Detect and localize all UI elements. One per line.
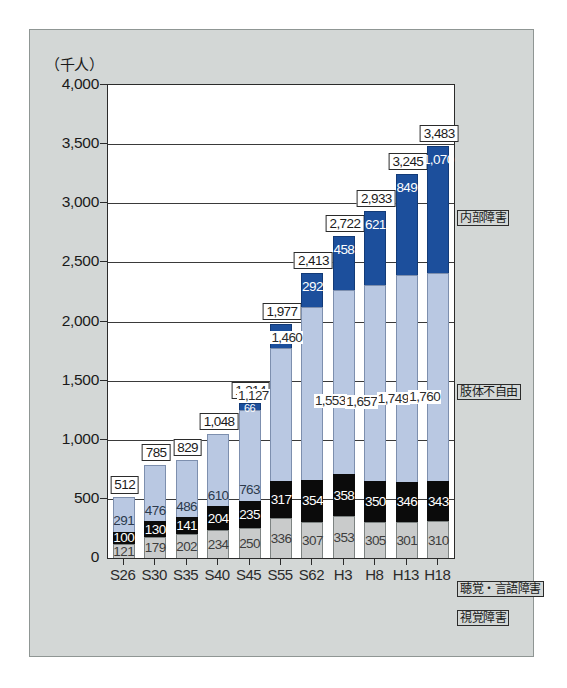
segment-value-label: 1,657: [345, 395, 378, 409]
bar-S45[interactable]: 25023576366: [239, 403, 261, 558]
segment-value-label: 1,749: [377, 392, 410, 406]
bar-S35[interactable]: 202141486: [176, 460, 198, 558]
bar-S55[interactable]: 3363171,127197: [270, 324, 292, 558]
bar-S30[interactable]: 179130476: [144, 465, 166, 558]
segment-value-label: 476: [145, 504, 166, 518]
x-axis-tick-mark: [217, 559, 218, 565]
y-axis-tick-mark: [100, 143, 107, 144]
bar-segment[interactable]: 476: [144, 465, 166, 521]
bar-segment[interactable]: 202: [176, 534, 198, 558]
segment-value-label: 100: [113, 532, 134, 546]
y-axis-tick-label: 3,500: [30, 134, 99, 152]
x-axis-tick-mark: [280, 559, 281, 565]
y-axis-tick-mark: [100, 261, 107, 262]
bar-segment[interactable]: 235: [239, 501, 261, 529]
bar-segment[interactable]: 336: [270, 518, 292, 558]
bar-segment[interactable]: 610: [207, 434, 229, 506]
bar-segment[interactable]: 250: [239, 528, 261, 558]
bar-total-label: 3,245: [388, 153, 427, 170]
bar-segment[interactable]: 346: [396, 482, 418, 523]
bar-segment[interactable]: 621: [364, 211, 386, 284]
bar-segment[interactable]: 204: [207, 506, 229, 530]
x-axis-tick-mark: [374, 559, 375, 565]
bar-segment[interactable]: 1,127: [270, 348, 292, 481]
bar-segment[interactable]: 1,657: [364, 285, 386, 481]
x-axis-tick-label-H18: H18: [424, 566, 450, 583]
y-axis-tick-label: 2,500: [30, 252, 99, 270]
y-axis-tick-mark: [100, 380, 107, 381]
bar-segment[interactable]: 849: [396, 174, 418, 274]
bar-S40[interactable]: 234204610: [207, 434, 229, 558]
bar-segment[interactable]: 353: [333, 516, 355, 558]
bar-segment[interactable]: 121: [113, 544, 135, 558]
segment-value-label: 141: [176, 520, 197, 534]
segment-value-label: 343: [428, 495, 449, 509]
segment-value-label: 204: [208, 512, 229, 526]
x-axis-tick-mark: [343, 559, 344, 565]
bar-segment[interactable]: 458: [333, 236, 355, 290]
bar-H8[interactable]: 3053501,657621: [364, 211, 386, 558]
bar-segment[interactable]: 179: [144, 537, 166, 558]
segment-value-label: 307: [302, 534, 323, 548]
bar-H13[interactable]: 3013461,749849: [396, 174, 418, 558]
legend-item-1: 肢体不自由: [457, 384, 521, 400]
bar-segment[interactable]: 343: [427, 481, 449, 522]
bar-segment[interactable]: 130: [144, 521, 166, 536]
x-axis-tick-label-H8: H8: [365, 566, 383, 583]
segment-value-label: 310: [428, 534, 449, 548]
segment-value-label: 121: [113, 545, 134, 559]
segment-value-label: 234: [208, 538, 229, 552]
segment-value-label: 621: [365, 218, 386, 232]
x-axis-tick-mark: [123, 559, 124, 565]
bar-segment[interactable]: 350: [364, 481, 386, 522]
segment-value-label: 317: [271, 493, 292, 507]
bar-segment[interactable]: 305: [364, 522, 386, 558]
x-axis-tick-label-S30: S30: [142, 566, 167, 583]
bar-segment[interactable]: 358: [333, 474, 355, 516]
y-axis-tick-label: 4,000: [30, 75, 99, 93]
bar-segment[interactable]: 354: [301, 480, 323, 522]
bar-segment[interactable]: 486: [176, 460, 198, 517]
bar-segment[interactable]: 234: [207, 530, 229, 558]
bar-group: 1211002915121791304767852021414868292342…: [108, 85, 454, 558]
bar-segment[interactable]: 1,760: [427, 273, 449, 481]
bar-total-label: 2,413: [294, 252, 333, 269]
bar-segment[interactable]: 1,553: [333, 290, 355, 474]
y-axis-tick-label: 0: [30, 548, 99, 566]
bar-total-label: 1,048: [200, 413, 239, 430]
plot-area: 1211002915121791304767852021414868292342…: [107, 84, 455, 559]
segment-value-label: 1,553: [314, 394, 347, 408]
bar-segment[interactable]: 292: [301, 273, 323, 308]
bar-segment[interactable]: 1,749: [396, 275, 418, 482]
bar-segment[interactable]: 291: [113, 497, 135, 531]
bar-segment[interactable]: 100: [113, 532, 135, 544]
bar-segment[interactable]: 310: [427, 521, 449, 558]
y-axis-tick-label: 3,000: [30, 193, 99, 211]
x-axis-tick-label-S62: S62: [299, 566, 324, 583]
bar-segment[interactable]: 301: [396, 522, 418, 558]
x-axis-tick-label-H13: H13: [393, 566, 419, 583]
segment-value-label: 66: [244, 403, 255, 414]
x-axis-tick-label-S26: S26: [110, 566, 135, 583]
segment-value-label: 202: [176, 540, 197, 554]
bar-H18[interactable]: 3103431,7601,070: [427, 146, 449, 558]
bar-S26[interactable]: 121100291: [113, 497, 135, 558]
bar-segment[interactable]: 763: [239, 410, 261, 500]
segment-value-label: 849: [396, 181, 417, 195]
bar-segment[interactable]: 141: [176, 517, 198, 534]
legend-item-3: 視覚障害: [457, 610, 509, 626]
bar-segment[interactable]: 1,070: [427, 146, 449, 273]
x-axis-tick-label-S55: S55: [267, 566, 292, 583]
x-axis-tick-label-S45: S45: [236, 566, 261, 583]
segment-value-label: 301: [396, 535, 417, 549]
segment-value-label: 358: [334, 489, 355, 503]
y-axis-unit-label: （千人）: [45, 53, 103, 74]
segment-value-label: 130: [145, 523, 166, 537]
segment-value-label: 346: [396, 496, 417, 510]
segment-value-label: 458: [334, 243, 355, 257]
bar-S62[interactable]: 3073541,460292: [301, 273, 323, 558]
bar-total-label: 829: [173, 439, 202, 456]
bar-segment[interactable]: 66: [239, 403, 261, 411]
bar-segment[interactable]: 317: [270, 481, 292, 518]
bar-segment[interactable]: 307: [301, 522, 323, 558]
